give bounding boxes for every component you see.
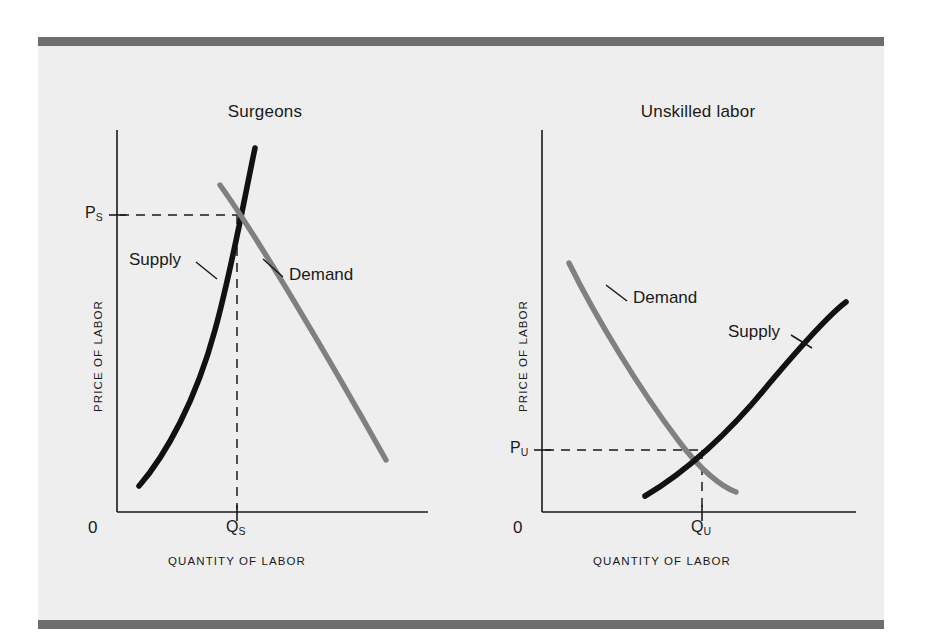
figure-container: Surgeons PRICE OF LABOR QUANTITY OF LABO… — [0, 0, 927, 638]
surgeons-chart-title: Surgeons — [200, 102, 330, 122]
surgeons-supply-label: Supply — [129, 250, 181, 270]
unskilled-price-base: P — [510, 439, 521, 456]
unskilled-supply-label: Supply — [728, 322, 780, 342]
surgeons-quantity-sub: S — [238, 525, 245, 537]
surgeons-y-axis-label: PRICE OF LABOR — [92, 300, 104, 412]
unskilled-quantity-base: Q — [691, 518, 703, 535]
unskilled-chart-title: Unskilled labor — [608, 102, 788, 122]
surgeons-origin-label: 0 — [88, 518, 97, 538]
unskilled-quantity-sub: U — [703, 525, 711, 537]
unskilled-x-axis-label: QUANTITY OF LABOR — [582, 555, 742, 567]
chart-surgeons — [109, 130, 428, 521]
surgeons-supply-leader — [196, 262, 217, 279]
unskilled-demand-label: Demand — [633, 288, 697, 308]
unskilled-demand-leader — [606, 285, 627, 301]
surgeons-price-sub: S — [96, 211, 103, 223]
surgeons-demand-label: Demand — [289, 265, 353, 285]
surgeons-x-axis-label: QUANTITY OF LABOR — [157, 555, 317, 567]
unskilled-y-axis-label: PRICE OF LABOR — [517, 300, 529, 412]
unskilled-quantity-label: QU — [691, 518, 711, 536]
surgeons-demand-curve — [220, 185, 386, 460]
surgeons-price-base: P — [85, 204, 96, 221]
unskilled-price-label: PU — [510, 439, 528, 457]
unskilled-price-sub: U — [521, 446, 529, 458]
charts-svg — [0, 0, 927, 638]
chart-unskilled-labor — [534, 130, 856, 521]
unskilled-origin-label: 0 — [513, 518, 522, 538]
surgeons-quantity-label: QS — [226, 518, 245, 536]
surgeons-price-label: PS — [85, 204, 103, 222]
surgeons-quantity-base: Q — [226, 518, 238, 535]
